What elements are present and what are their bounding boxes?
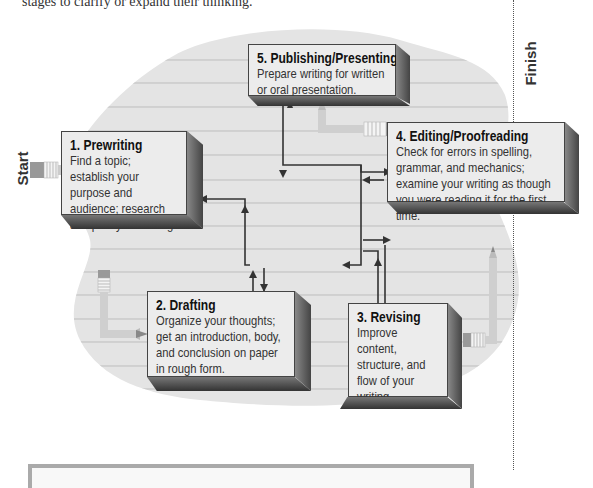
- step-description: Improve content, structure, and flow of …: [357, 325, 439, 405]
- step-number: 4.: [396, 128, 406, 144]
- step-description: Prepare writing for written or oral pres…: [257, 66, 387, 98]
- step-title: Prewriting: [83, 137, 142, 153]
- box-shadow: [448, 303, 462, 409]
- finish-label: Finish: [522, 41, 539, 85]
- step-drafting: 2. Drafting Organize your thoughts; get …: [147, 291, 295, 377]
- step-number: 5.: [257, 50, 267, 66]
- step-number: 1.: [70, 137, 80, 153]
- finish-guide-line: [513, 0, 514, 470]
- box-shadow: [387, 202, 579, 214]
- step-publishing: 5. Publishing/Presenting Prepare writing…: [248, 44, 396, 96]
- box-shadow: [295, 291, 311, 391]
- box-shadow: [248, 96, 410, 106]
- step-prewriting: 1. Prewriting Find a topic; establish yo…: [61, 131, 187, 215]
- step-title: Editing/Proofreading: [409, 128, 528, 144]
- bottom-panel-frame: [28, 464, 474, 488]
- box-shadow: [187, 131, 203, 229]
- step-title: Revising: [370, 309, 420, 325]
- start-label: Start: [14, 151, 31, 185]
- box-shadow: [565, 122, 579, 214]
- step-title: Publishing/Presenting: [270, 50, 397, 66]
- box-shadow: [340, 397, 462, 409]
- step-title: Drafting: [169, 297, 215, 313]
- step-number: 2.: [156, 297, 166, 313]
- step-number: 3.: [357, 309, 367, 325]
- step-description: Organize your thoughts; get an introduct…: [156, 313, 286, 377]
- box-shadow: [147, 377, 311, 391]
- step-editing: 4. Editing/Proofreading Check for errors…: [387, 122, 565, 202]
- box-shadow: [61, 215, 203, 229]
- step-revising: 3. Revising Improve content, structure, …: [348, 303, 448, 397]
